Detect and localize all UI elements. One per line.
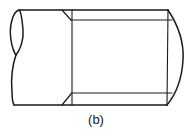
curved-end [167, 10, 183, 105]
chamfer-top [62, 10, 71, 20]
break-line-symbol [10, 10, 23, 55]
figure-caption: (b) [0, 112, 192, 127]
end-line [167, 10, 168, 105]
chamfer-bottom [62, 94, 71, 105]
break-line-lower [12, 55, 16, 105]
